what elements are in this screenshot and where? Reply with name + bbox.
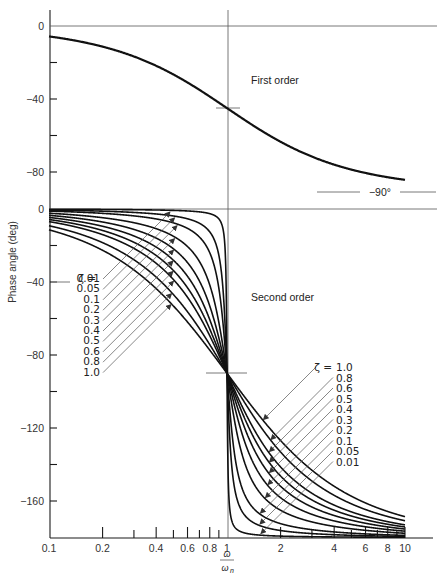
- zeta-leader-arrow: [103, 281, 174, 352]
- y-tick-label: −40: [26, 93, 44, 105]
- zeta-leader-arrow: [103, 212, 170, 279]
- zeta-label-left: 1.0: [83, 366, 100, 378]
- y-ticks-bottom: 0−40−80−120−160: [20, 203, 57, 507]
- y-axis-label: Phase angle (deg): [7, 221, 18, 303]
- zeta-leader-arrow: [103, 271, 173, 341]
- y-tick-label: −80: [26, 166, 44, 178]
- first-order-curve: [49, 36, 405, 179]
- zeta-leader-arrow: [103, 250, 174, 321]
- x-tick-label: 0.2: [95, 542, 110, 554]
- y-ticks-top: 0−40−80: [26, 20, 57, 178]
- first-order-label: First order: [251, 74, 299, 86]
- x-tick-label: 4: [331, 542, 337, 554]
- x-axis-label-denominator: ω: [221, 563, 228, 573]
- y-tick-label: 0: [38, 203, 44, 215]
- y-tick-label: −120: [20, 422, 44, 434]
- y-tick-label: −40: [26, 276, 44, 288]
- minus90-label: −90°: [369, 186, 391, 198]
- x-tick-label: 0.1: [42, 542, 57, 554]
- x-tick-label: 0.4: [149, 542, 164, 554]
- zeta-label-right: 0.01: [336, 456, 359, 468]
- x-tick-label: 0.8: [202, 542, 217, 554]
- zeta-prefix: ζ =: [314, 361, 332, 373]
- zeta-leader-arrow: [270, 399, 334, 463]
- y-tick-label: −160: [20, 495, 44, 507]
- zeta-leader-arrow: [270, 388, 334, 452]
- zeta-leader-arrow: [268, 420, 333, 485]
- x-axis-label-numerator: ω: [223, 549, 230, 559]
- x-axis-label: ω ω n: [220, 549, 234, 574]
- second-order-label: Second order: [251, 291, 315, 303]
- x-tick-label: 0.6: [180, 542, 195, 554]
- y-tick-label: −80: [26, 349, 44, 361]
- x-tick-label: 8: [385, 542, 391, 554]
- zeta-leader-arrow: [271, 378, 333, 440]
- x-tick-label: 6: [363, 542, 369, 554]
- zeta-leader-arrow: [103, 261, 173, 331]
- x-axis-label-denominator-sub: n: [230, 567, 234, 574]
- zeta-leader-arrow: [264, 367, 317, 420]
- zeta-leader-arrow: [103, 305, 171, 373]
- zeta-leader-arrow: [103, 239, 175, 311]
- x-tick-label: 10: [399, 542, 411, 554]
- zeta-leader-arrow: [261, 462, 333, 534]
- zeta-leader-arrow: [266, 430, 334, 498]
- x-tick-label: 2: [278, 542, 284, 554]
- y-tick-label: 0: [38, 20, 44, 32]
- zeta-leader-arrow: [103, 294, 172, 363]
- zeta-leader-arrow: [270, 409, 334, 473]
- phase-plot: 0−40−80 0−40−80−120−160 0.10.20.40.60.81…: [0, 0, 443, 582]
